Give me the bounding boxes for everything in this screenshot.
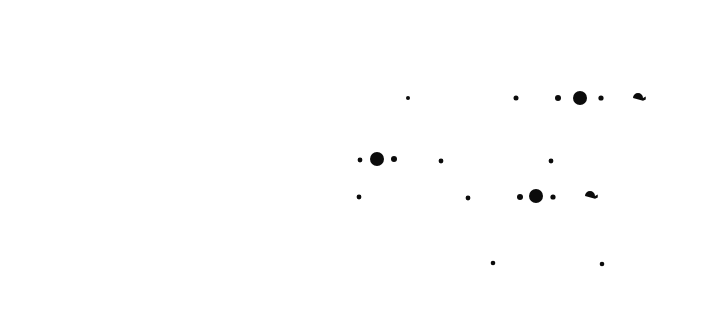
dot-medium xyxy=(358,158,363,163)
dot-large xyxy=(391,156,397,162)
dot-medium xyxy=(550,194,555,199)
dot-medium xyxy=(439,159,444,164)
dot-small xyxy=(406,96,410,100)
dot-medium xyxy=(600,262,605,267)
dot-medium xyxy=(549,159,554,164)
dot-layer xyxy=(0,0,704,325)
dot-xlarge xyxy=(370,152,384,166)
dot-medium xyxy=(598,95,603,100)
dot-pattern-canvas xyxy=(0,0,704,325)
dot-medium xyxy=(491,261,496,266)
dot-medium xyxy=(514,96,519,101)
dot-medium xyxy=(357,195,362,200)
dot-large xyxy=(517,194,523,200)
background-rect xyxy=(0,0,704,325)
dot-xlarge xyxy=(573,91,587,105)
dot-large xyxy=(555,95,561,101)
dot-xlarge xyxy=(529,189,543,203)
dot-medium xyxy=(466,196,471,201)
